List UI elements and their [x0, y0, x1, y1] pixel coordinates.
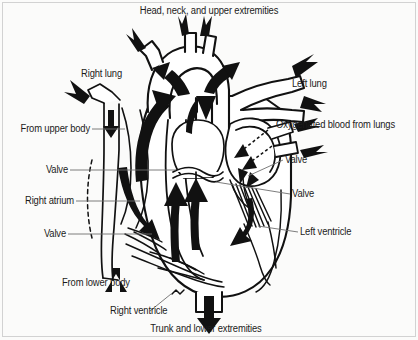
label-from-lower-body: From lower body	[62, 277, 130, 288]
aortic-valve-outflow	[172, 120, 224, 182]
label-right-lung: Right lung	[81, 68, 122, 79]
right-atrium-dashed-boundary	[88, 160, 93, 238]
label-valve-left-lower: Valve	[44, 228, 66, 239]
arrow-branch-1	[126, 28, 146, 52]
arrow-left-lung-1	[292, 54, 318, 78]
label-left-lung: Left lung	[292, 78, 327, 89]
label-trunk-and-lower-extremities: Trunk and lower extremities	[150, 323, 261, 334]
arrow-branch-2	[178, 14, 189, 36]
arrow-svc-down	[103, 110, 119, 138]
label-valve-right-upper: Valve	[285, 154, 307, 165]
heart-diagram-figure: Head, neck, and upper extremities Right …	[0, 0, 418, 340]
label-head-neck-upper-extremities: Head, neck, and upper extremities	[140, 5, 279, 16]
vena-cava	[88, 84, 120, 280]
label-from-upper-body: From upper body	[21, 123, 90, 134]
label-left-ventricle: Left ventricle	[300, 226, 351, 237]
label-valve-left-upper: Valve	[46, 164, 68, 175]
arrow-right-lung	[64, 80, 90, 104]
arrow-branch-3	[200, 16, 212, 36]
label-valve-right-lower: Valve	[292, 188, 314, 199]
label-right-atrium: Right atrium	[25, 195, 74, 206]
arrow-left-lung-2	[300, 96, 326, 112]
label-oxygenated-blood-from-lungs: Oxygenated blood from lungs	[276, 119, 395, 130]
label-right-ventricle: Right ventricle	[110, 305, 167, 316]
